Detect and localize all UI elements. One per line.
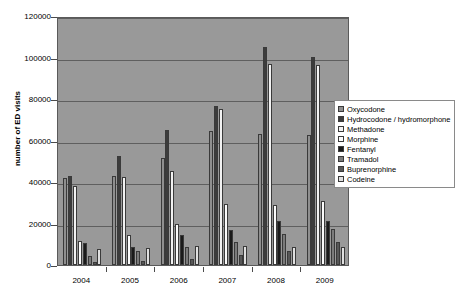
legend-swatch-icon <box>338 166 344 172</box>
legend-swatch-icon <box>338 156 344 162</box>
x-axis-tick-mark <box>203 267 204 272</box>
legend-item: Buprenorphine <box>338 164 450 174</box>
legend-item: Tramadol <box>338 154 450 164</box>
bar <box>170 171 174 265</box>
legend-swatch-icon <box>338 106 344 112</box>
legend-item: Fentanyl <box>338 144 450 154</box>
legend-swatch-icon <box>338 126 344 132</box>
bar <box>180 235 184 265</box>
bar <box>268 64 272 265</box>
bar <box>161 158 165 265</box>
bar-group-2008 <box>258 16 296 265</box>
bar <box>282 234 286 265</box>
bar <box>326 221 330 265</box>
legend-swatch-icon <box>338 116 344 122</box>
bar <box>239 255 243 265</box>
y-axis-title: number of ED visits <box>13 74 22 184</box>
x-axis-tick-label: 2009 <box>295 276 355 285</box>
x-axis-tick-mark <box>154 267 155 272</box>
bar <box>117 156 121 265</box>
bar <box>292 247 296 265</box>
legend-swatch-icon <box>338 146 344 152</box>
bar <box>229 230 233 265</box>
y-axis-tick-label: 120000 <box>7 13 51 21</box>
legend-label: Tramadol <box>347 155 378 164</box>
y-axis-tick-label: 100000 <box>7 55 51 63</box>
bar <box>127 235 131 265</box>
bar <box>185 247 189 265</box>
legend-swatch-icon <box>338 136 344 142</box>
bar <box>209 131 213 265</box>
legend-label: Hydrocodone / hydromorphone <box>347 115 450 124</box>
legend-item: Hydrocodone / hydromorphone <box>338 114 450 124</box>
legend: OxycodoneHydrocodone / hydromorphoneMeth… <box>334 100 455 188</box>
legend-item: Methadone <box>338 124 450 134</box>
bar <box>214 106 218 265</box>
bar <box>141 261 145 265</box>
bar <box>78 241 82 266</box>
bar <box>341 247 345 265</box>
legend-swatch-icon <box>338 176 344 182</box>
gridline <box>58 60 348 61</box>
bar <box>165 130 169 265</box>
gridline <box>58 184 348 185</box>
gridline <box>58 226 348 227</box>
bar <box>63 178 67 265</box>
legend-label: Buprenorphine <box>347 165 396 174</box>
bar <box>316 65 320 265</box>
y-axis-tick-label: 0 <box>7 262 51 270</box>
bar <box>73 186 77 265</box>
legend-label: Methadone <box>347 125 385 134</box>
bar <box>258 134 262 265</box>
y-axis-tick-label: 60000 <box>7 138 51 146</box>
bar <box>273 205 277 265</box>
plot-area <box>57 17 349 266</box>
bar <box>175 224 179 265</box>
bar <box>219 109 223 265</box>
bar <box>93 262 97 265</box>
x-axis-tick-mark <box>252 267 253 272</box>
gridline <box>58 143 348 144</box>
bar <box>112 176 116 265</box>
legend-label: Fentanyl <box>347 145 376 154</box>
bar <box>136 251 140 265</box>
y-axis-tick-label: 80000 <box>7 96 51 104</box>
bar <box>234 242 238 265</box>
bar <box>311 57 315 265</box>
bar <box>195 246 199 265</box>
bar <box>277 221 281 265</box>
bar <box>68 176 72 265</box>
bar <box>336 242 340 265</box>
x-axis-tick-mark <box>106 267 107 272</box>
bar <box>307 135 311 265</box>
y-axis-tick-label: 40000 <box>7 179 51 187</box>
legend-label: Morphine <box>347 135 378 144</box>
x-axis-tick-mark <box>300 267 301 272</box>
bar <box>243 246 247 266</box>
y-axis-tick-label: 20000 <box>7 221 51 229</box>
bar <box>131 247 135 266</box>
legend-item: Oxycodone <box>338 104 450 114</box>
bar <box>146 248 150 265</box>
bar <box>97 249 101 265</box>
bar <box>331 229 335 265</box>
bar-group-2005 <box>112 16 150 265</box>
bar-group-2006 <box>161 16 199 265</box>
legend-label: Codeine <box>347 175 375 184</box>
bar <box>263 47 267 265</box>
bar <box>122 177 126 265</box>
gridline <box>58 18 348 19</box>
bar-group-2004 <box>63 16 101 265</box>
bar <box>287 251 291 266</box>
bar <box>190 259 194 265</box>
legend-item: Morphine <box>338 134 450 144</box>
y-axis-tick-mark <box>51 266 57 267</box>
bar-group-2007 <box>209 16 247 265</box>
bar <box>83 243 87 265</box>
legend-label: Oxycodone <box>347 105 385 114</box>
bar <box>88 256 92 265</box>
bar-chart: number of ED visits 02000040000600008000… <box>0 0 464 304</box>
bar <box>224 204 228 265</box>
gridline <box>58 101 348 102</box>
bar <box>321 201 325 266</box>
